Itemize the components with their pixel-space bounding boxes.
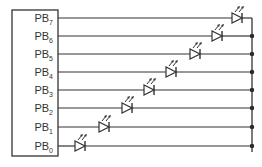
pin-label: PB3 [34, 84, 53, 98]
pin-label: PB4 [34, 66, 53, 80]
led-icon [75, 134, 87, 151]
pin-row-pb7: PB7 [34, 6, 252, 26]
pin-row-pb2: PB2 [34, 96, 254, 116]
led-icon [166, 60, 178, 77]
pin-label: PB2 [34, 102, 53, 116]
led-icon [212, 24, 224, 41]
pin-label: PB7 [34, 12, 53, 26]
led-icon [122, 96, 134, 113]
pin-label: PB0 [34, 140, 53, 154]
pin-row-pb3: PB3 [34, 78, 254, 98]
pin-row-pb1: PB1 [34, 115, 254, 135]
pin-label: PB1 [34, 121, 53, 135]
led-icon [144, 78, 156, 95]
led-icon [99, 115, 111, 132]
pin-label: PB5 [34, 48, 53, 62]
pin-row-pb4: PB4 [34, 60, 254, 80]
pin-row-pb0: PB0 [34, 134, 254, 154]
circuit-schematic: PB7PB6PB5PB4PB3PB2PB1PB0 [0, 0, 262, 167]
led-icon [190, 42, 202, 59]
pin-row-pb6: PB6 [34, 24, 254, 44]
pin-label: PB6 [34, 30, 53, 44]
pin-row-pb5: PB5 [34, 42, 254, 62]
led-icon [232, 6, 244, 23]
